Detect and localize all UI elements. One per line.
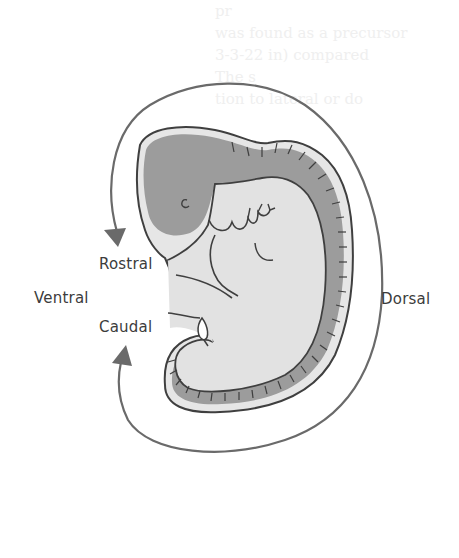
arrow-head-down-icon (104, 228, 126, 247)
label-dorsal: Dorsal (381, 290, 430, 308)
arrow-head-up-icon (112, 345, 132, 366)
label-rostral: Rostral (99, 255, 153, 273)
figure-canvas: pr was found as a precursor 3-3-22 in) c… (0, 0, 459, 558)
embryo (137, 127, 353, 412)
label-ventral: Ventral (34, 289, 89, 307)
embryo-diagram (0, 0, 459, 558)
label-caudal: Caudal (99, 318, 152, 336)
